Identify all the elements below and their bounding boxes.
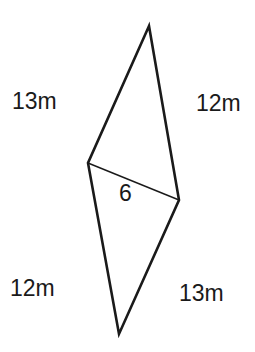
label-diagonal: 6 [119, 182, 132, 205]
label-bottom-left-side: 12m [10, 277, 55, 300]
label-top-right-side: 12m [196, 92, 241, 115]
label-bottom-right-side: 13m [179, 282, 224, 305]
outer-quadrilateral [88, 26, 179, 334]
label-top-left-side: 13m [12, 90, 57, 113]
diagram-canvas: 13m 12m 6 12m 13m [0, 0, 255, 352]
diagonal-line [88, 163, 179, 200]
